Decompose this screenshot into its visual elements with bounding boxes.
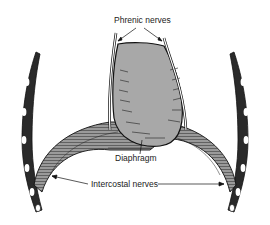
intercostal-nerves-label: Intercostal nerves	[91, 179, 158, 189]
diaphragm-label: Diaphragm	[115, 153, 157, 163]
diaphragm-innervation-diagram: Phrenic nerves Diaphragm Intercostal ner…	[0, 0, 270, 225]
heart	[113, 43, 183, 147]
phrenic-nerves-label: Phrenic nerves	[114, 15, 171, 25]
